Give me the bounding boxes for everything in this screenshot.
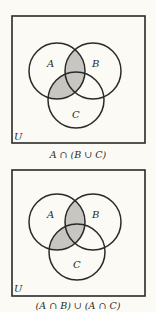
set-label-b: B xyxy=(91,58,99,69)
set-label-a: A xyxy=(46,58,54,69)
universe-label: U xyxy=(14,283,23,294)
shaded-region xyxy=(48,43,121,128)
diagram-1: A B C U A ∩ (B ∪ C) xyxy=(12,16,145,160)
universe-label: U xyxy=(14,131,23,142)
venn-diagram-figure: A B C U A ∩ (B ∪ C) A B C U (A ∩ B) ∪ (A… xyxy=(0,0,156,312)
set-label-b: B xyxy=(91,209,99,220)
shaded-region xyxy=(49,194,121,280)
venn-diagrams-svg: A B C U A ∩ (B ∪ C) A B C U (A ∩ B) ∪ (A… xyxy=(0,0,156,312)
set-label-c: C xyxy=(72,109,80,120)
caption: A ∩ (B ∪ C) xyxy=(49,149,107,160)
diagram-2: A B C U (A ∩ B) ∪ (A ∩ C) xyxy=(12,170,145,311)
caption: (A ∩ B) ∪ (A ∩ C) xyxy=(36,300,121,311)
set-label-c: C xyxy=(73,259,81,270)
set-label-a: A xyxy=(46,209,54,220)
